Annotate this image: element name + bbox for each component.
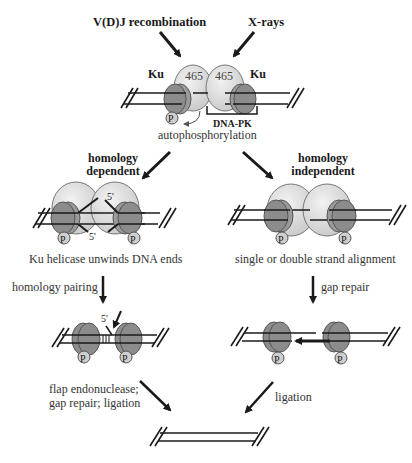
arrow-homology-independent xyxy=(243,152,272,178)
phospho-label-top: P xyxy=(168,112,174,125)
subunit-left-label: 465 xyxy=(185,70,203,83)
phospho-label: P xyxy=(337,353,343,366)
phospho-label: P xyxy=(60,233,66,246)
arrow-left-final xyxy=(140,381,170,410)
autophosphorylation-label: autophosphorylation xyxy=(158,129,257,142)
left-helicase-complex xyxy=(33,182,176,244)
left-complex-caption: Ku helicase unwinds DNA ends xyxy=(29,253,182,266)
left-paired-complex xyxy=(52,311,169,363)
five-prime-top-label: 5' xyxy=(107,190,114,203)
ligation-label: ligation xyxy=(275,391,312,404)
phospho-label: P xyxy=(274,353,280,366)
phospho-label: P xyxy=(122,352,128,365)
right-alignment-complex xyxy=(228,184,406,244)
phospho-label: P xyxy=(341,233,347,246)
five-prime-bottom-label: 5' xyxy=(89,230,96,243)
repaired-dna xyxy=(150,427,269,446)
branch-left-title-2: dependent xyxy=(78,165,148,178)
subunit-right-label: 465 xyxy=(215,70,233,83)
flap-endonuclease-label-2: gap repair; ligation xyxy=(49,397,140,410)
flap-endonuclease-label-1: flap endonuclease; xyxy=(49,383,139,396)
arrow-xrays xyxy=(234,32,254,56)
input-xrays-label: X-rays xyxy=(248,16,284,29)
input-vdj-label: V(D)J recombination xyxy=(93,16,206,29)
homology-pairing-label: homology pairing xyxy=(12,281,98,294)
ku-right xyxy=(234,84,256,114)
ku-left xyxy=(164,84,186,114)
five-prime-flap-label: 5' xyxy=(101,312,108,325)
phospho-label: P xyxy=(278,233,284,246)
gap-repair-label: gap repair xyxy=(321,281,369,294)
branch-right-title-2: independent xyxy=(283,165,363,178)
arrow-right-final xyxy=(246,382,273,412)
right-complex-caption: single or double strand alignment xyxy=(235,253,396,266)
ku-right-label: Ku xyxy=(250,68,266,81)
phospho-label: P xyxy=(130,233,136,246)
arrow-vdj xyxy=(160,32,180,56)
ku-left-label: Ku xyxy=(148,68,164,81)
flap-cut-arrow xyxy=(114,311,121,327)
right-gap-complex xyxy=(231,322,400,364)
phospho-label: P xyxy=(80,352,86,365)
